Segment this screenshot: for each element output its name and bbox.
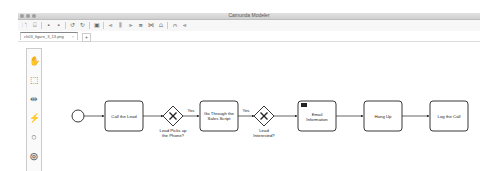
gateway-lead-interested[interactable]: Lead Interested?	[253, 106, 275, 138]
gateway-label: the Phone?	[162, 133, 185, 138]
task-sales-script[interactable]: Go Through the Sales Script	[200, 101, 238, 131]
gateway-lead-picks-up[interactable]: Lead Picks up the Phone?	[160, 106, 188, 138]
flow-label-yes: Yes	[242, 108, 249, 113]
gateway-label: Interested?	[253, 133, 275, 138]
send-envelope-icon	[301, 103, 307, 107]
task-label: Sales Script	[208, 116, 232, 121]
task-label: Hang Up	[375, 114, 393, 119]
task-log-call[interactable]: Log the Call	[430, 101, 468, 131]
bpmn-diagram: Call the Lead Go Through the Sales Scrip…	[0, 0, 486, 171]
flow-label-yes: Yes	[187, 108, 194, 113]
task-label: Call the Lead	[111, 114, 137, 119]
task-hang-up[interactable]: Hang Up	[364, 101, 402, 131]
task-label: Information	[306, 117, 328, 122]
task-label: Log the Call	[438, 114, 461, 119]
start-event[interactable]	[72, 110, 84, 122]
task-email-information[interactable]: Email Information	[298, 101, 336, 131]
task-call-lead[interactable]: Call the Lead	[105, 101, 143, 131]
